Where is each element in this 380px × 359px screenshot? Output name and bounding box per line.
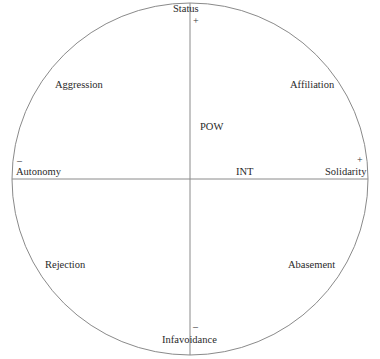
- axis-label-status: Status: [173, 3, 199, 15]
- axis-sign-top-plus: +: [193, 16, 199, 26]
- circumplex-diagram: [0, 0, 380, 359]
- quadrant-label-abasement: Abasement: [288, 259, 335, 271]
- axis-label-autonomy: Autonomy: [16, 166, 61, 178]
- axis-sign-bottom-minus: –: [193, 322, 198, 332]
- inner-label-int: INT: [236, 166, 254, 178]
- axis-sign-left-minus: –: [17, 156, 22, 166]
- quadrant-label-aggression: Aggression: [55, 79, 103, 91]
- inner-label-pow: POW: [200, 121, 223, 133]
- axis-sign-right-plus: +: [357, 155, 363, 165]
- axis-label-infavoidance: Infavoidance: [162, 334, 217, 346]
- quadrant-label-rejection: Rejection: [45, 259, 85, 271]
- quadrant-label-affiliation: Affiliation: [290, 79, 334, 91]
- axis-label-solidarity: Solidarity: [325, 166, 366, 178]
